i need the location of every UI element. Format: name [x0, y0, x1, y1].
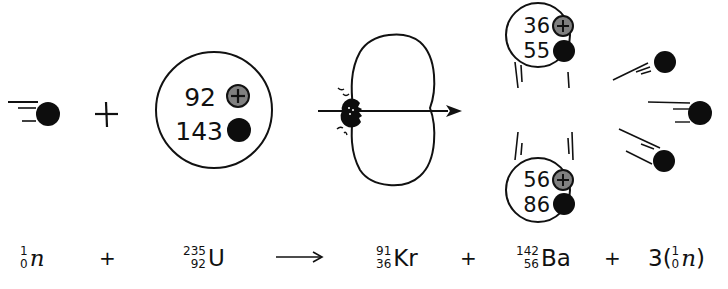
incoming-neutron-icon	[8, 102, 60, 126]
neutron-icon	[553, 193, 575, 215]
element-symbol: Kr	[393, 245, 418, 271]
atomic-number: 0	[20, 258, 28, 271]
neutron-icon	[227, 118, 251, 142]
released-neutrons	[613, 51, 712, 172]
plus-sign: +	[460, 236, 477, 280]
coefficient: 3(	[648, 245, 672, 271]
atomic-number: 92	[191, 258, 206, 271]
neutrons-out-term: 3( 10 n )	[648, 236, 705, 280]
plus-sign: +	[604, 236, 621, 280]
atomic-number: 56	[524, 258, 539, 271]
neutron-icon	[553, 40, 575, 62]
element-symbol: U	[208, 245, 225, 271]
barium-protons: 56	[523, 168, 550, 192]
reaction-arrow-icon	[276, 252, 322, 262]
element-symbol: n	[681, 245, 696, 271]
element-symbol: n	[30, 245, 45, 271]
proton-icon	[553, 170, 573, 190]
uranium-term: 23592 U	[183, 236, 225, 280]
neutron-in-term: 10 n	[20, 236, 44, 280]
barium-fragment: 56 86	[506, 132, 575, 222]
neutron-icon	[619, 129, 675, 172]
plus-icon	[95, 102, 118, 127]
uranium-nucleus: 92 143	[156, 52, 272, 168]
neutron-icon	[613, 51, 676, 80]
krypton-protons: 36	[523, 14, 550, 38]
atomic-number: 36	[376, 258, 391, 271]
krypton-neutrons: 55	[523, 39, 550, 63]
atomic-number: 0	[672, 258, 680, 271]
uranium-neutrons: 143	[175, 117, 223, 146]
barium-neutrons: 86	[523, 193, 550, 217]
plus-sign: +	[99, 236, 116, 280]
neutron-icon	[648, 101, 712, 125]
closing-paren: )	[696, 245, 705, 271]
barium-term: 14256 Ba	[516, 236, 571, 280]
proton-icon	[227, 85, 249, 107]
element-symbol: Ba	[541, 245, 571, 271]
krypton-fragment: 36 55	[506, 3, 575, 88]
krypton-term: 9136 Kr	[376, 236, 418, 280]
uranium-protons: 92	[184, 83, 216, 112]
proton-icon	[553, 16, 573, 36]
splitting-nucleus-icon	[318, 35, 462, 186]
